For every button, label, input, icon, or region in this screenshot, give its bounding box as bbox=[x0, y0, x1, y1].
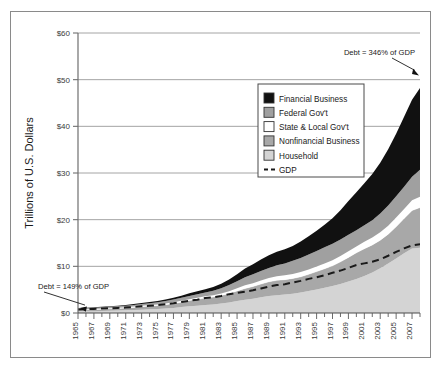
x-tick-label-2007: 2007 bbox=[405, 321, 414, 339]
y-tick-label-50: $50 bbox=[57, 76, 71, 85]
legend-swatch-state-local-gov-t bbox=[264, 122, 274, 132]
debt-vs-gdp-area-chart: $0$10$20$30$40$50$60 1965196719691971197… bbox=[0, 0, 442, 369]
chart-legend: Financial BusinessFederal Gov'tState & L… bbox=[258, 84, 364, 177]
y-tick-label-10: $10 bbox=[57, 262, 71, 271]
x-tick-label-2005: 2005 bbox=[389, 321, 398, 339]
legend-label-gdp: GDP bbox=[279, 166, 297, 175]
y-tick-label-40: $40 bbox=[57, 122, 71, 131]
x-axis-tick-labels: 1965196719691971197319751977197919811983… bbox=[71, 321, 414, 339]
x-tick-label-1977: 1977 bbox=[166, 321, 175, 339]
annotation-end-arrowhead bbox=[412, 69, 419, 76]
x-tick-label-1969: 1969 bbox=[103, 321, 112, 339]
x-tick-label-1973: 1973 bbox=[135, 321, 144, 339]
x-tick-label-1965: 1965 bbox=[71, 321, 80, 339]
legend-swatch-federal-gov-t bbox=[264, 107, 274, 117]
x-tick-label-1985: 1985 bbox=[230, 321, 239, 339]
x-tick-label-1995: 1995 bbox=[310, 321, 319, 339]
x-tick-label-1991: 1991 bbox=[278, 321, 287, 339]
legend-label-nonfinancial-business: Nonfinancial Business bbox=[279, 137, 360, 146]
y-tick-label-0: $0 bbox=[61, 309, 70, 318]
annotation-end-text: Debt = 346% of GDP bbox=[344, 48, 415, 57]
y-axis-title: Trillions of U.S. Dollars bbox=[23, 117, 35, 229]
stacked-area-series bbox=[78, 88, 420, 313]
x-tick-label-1979: 1979 bbox=[182, 321, 191, 339]
x-tick-label-1999: 1999 bbox=[341, 321, 350, 339]
legend-label-state-local-gov-t: State & Local Gov't bbox=[279, 123, 350, 132]
chart-figure: $0$10$20$30$40$50$60 1965196719691971197… bbox=[0, 0, 442, 369]
annotation-end-leader bbox=[392, 58, 415, 70]
y-axis-ticks: $0$10$20$30$40$50$60 bbox=[57, 29, 78, 318]
x-tick-label-1983: 1983 bbox=[214, 321, 223, 339]
x-tick-label-1971: 1971 bbox=[119, 321, 128, 339]
x-tick-label-1993: 1993 bbox=[294, 321, 303, 339]
legend-label-federal-gov-t: Federal Gov't bbox=[279, 109, 329, 118]
x-tick-label-2001: 2001 bbox=[357, 321, 366, 339]
legend-label-financial-business: Financial Business bbox=[279, 95, 347, 104]
legend-swatch-financial-business bbox=[264, 93, 274, 103]
x-tick-label-1989: 1989 bbox=[262, 321, 271, 339]
y-tick-label-30: $30 bbox=[57, 169, 71, 178]
x-tick-label-1987: 1987 bbox=[246, 321, 255, 339]
y-tick-label-60: $60 bbox=[57, 29, 71, 38]
annotation-start-text: Debt = 149% of GDP bbox=[38, 282, 109, 291]
x-tick-label-1981: 1981 bbox=[198, 321, 207, 339]
legend-label-household: Household bbox=[279, 152, 319, 161]
x-tick-label-2003: 2003 bbox=[373, 321, 382, 339]
legend-swatch-nonfinancial-business bbox=[264, 136, 274, 146]
y-tick-label-20: $20 bbox=[57, 216, 71, 225]
x-axis-ticks bbox=[78, 313, 420, 319]
x-tick-label-1997: 1997 bbox=[326, 321, 335, 339]
x-tick-label-1975: 1975 bbox=[151, 321, 160, 339]
annotation-start-leader bbox=[44, 292, 85, 305]
legend-swatch-household bbox=[264, 150, 274, 160]
x-tick-label-1967: 1967 bbox=[87, 321, 96, 339]
